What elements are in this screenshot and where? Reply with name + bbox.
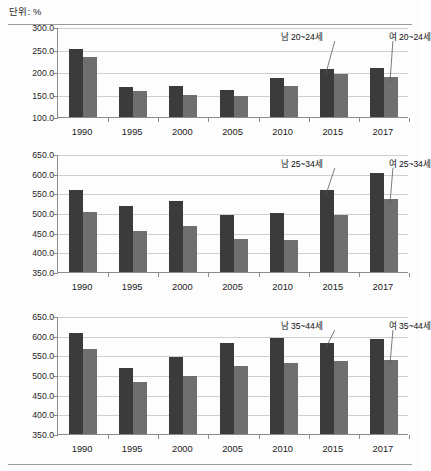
- x-tick-mark: [259, 273, 260, 277]
- bar-male-2000: [169, 86, 183, 117]
- bar-male-2017: [370, 339, 384, 434]
- x-axis-tick-label: 2010: [272, 282, 293, 292]
- y-axis-tick-label: 400.0: [10, 248, 54, 258]
- series-annotation-label: 여 25~34세: [389, 157, 431, 169]
- y-tick-mark: [54, 253, 58, 254]
- y-tick-mark: [54, 28, 58, 29]
- bar-male-2000: [169, 357, 183, 434]
- bar-female-2015: [334, 74, 348, 117]
- bar-female-1990: [83, 212, 97, 272]
- x-axis-tick-label: 2010: [272, 127, 293, 137]
- bar-male-1995: [119, 206, 133, 272]
- y-axis-tick-label: 500.0: [10, 209, 54, 219]
- y-axis-tick-label: 650.0: [10, 312, 54, 322]
- gridline: [58, 155, 408, 156]
- x-tick-mark: [259, 118, 260, 122]
- y-tick-mark: [54, 234, 58, 235]
- y-tick-mark: [54, 96, 58, 97]
- y-tick-mark: [54, 396, 58, 397]
- bar-female-2015: [334, 215, 348, 272]
- y-axis-tick-label: 300.0: [10, 23, 54, 33]
- x-axis-tick-label: 2000: [172, 127, 193, 137]
- x-axis-tick-label: 2015: [322, 282, 343, 292]
- bar-male-2017: [370, 173, 384, 272]
- bar-female-2017: [384, 77, 398, 117]
- y-tick-mark: [54, 317, 58, 318]
- y-tick-mark: [54, 337, 58, 338]
- bar-male-1990: [69, 333, 83, 434]
- plot-area: [57, 317, 408, 435]
- bar-male-2010: [270, 213, 284, 272]
- gridline: [58, 194, 408, 195]
- x-axis-tick-label: 1990: [72, 127, 93, 137]
- x-tick-mark: [309, 435, 310, 439]
- y-axis-tick-label: 600.0: [10, 332, 54, 342]
- gridline: [58, 175, 408, 176]
- x-axis-tick-label: 2005: [222, 127, 243, 137]
- series-annotation-label: 여 20~24세: [389, 30, 431, 42]
- x-tick-mark: [108, 118, 109, 122]
- x-axis-tick-label: 1995: [122, 127, 143, 137]
- x-axis-tick-label: 2017: [373, 127, 394, 137]
- y-axis-tick-label: 550.0: [10, 351, 54, 361]
- bar-male-2015: [320, 343, 334, 434]
- bar-female-2017: [384, 199, 398, 272]
- series-annotation-label: 남 35~44세: [281, 319, 323, 331]
- series-annotation-label: 여 35~44세: [389, 319, 431, 331]
- x-tick-mark: [158, 435, 159, 439]
- bar-male-2015: [320, 190, 334, 272]
- gridline: [58, 317, 408, 318]
- x-axis-tick-label: 1995: [122, 282, 143, 292]
- x-tick-mark: [409, 118, 410, 122]
- x-axis-tick-label: 1995: [122, 444, 143, 454]
- bar-female-2000: [183, 376, 197, 434]
- y-axis-tick-label: 100.0: [10, 113, 54, 123]
- gridline: [58, 28, 408, 29]
- y-tick-mark: [54, 118, 58, 119]
- x-tick-mark: [309, 118, 310, 122]
- x-tick-mark: [309, 273, 310, 277]
- y-tick-mark: [54, 73, 58, 74]
- bar-female-2005: [234, 239, 248, 272]
- plot-area: [57, 155, 408, 273]
- chart-panel-25-34: 350.0400.0450.0500.0550.0600.0650.019901…: [0, 155, 420, 295]
- bottom-divider: [8, 464, 412, 465]
- bar-male-1990: [69, 190, 83, 272]
- x-axis-tick-label: 2015: [322, 444, 343, 454]
- x-axis-tick-label: 1990: [72, 444, 93, 454]
- bar-male-1995: [119, 368, 133, 434]
- unit-label: 단위: %: [9, 4, 42, 18]
- chart-panel-20-24: 100.0150.0200.0250.0300.0199019952000200…: [0, 28, 420, 140]
- chart-panel-35-44: 350.0400.0450.0500.0550.0600.0650.019901…: [0, 317, 420, 457]
- x-tick-mark: [259, 435, 260, 439]
- bar-female-2010: [284, 363, 298, 434]
- y-axis-tick-label: 350.0: [10, 430, 54, 440]
- x-tick-mark: [359, 273, 360, 277]
- x-axis-tick-label: 2017: [373, 282, 394, 292]
- series-annotation-label: 남 25~34세: [281, 157, 323, 169]
- x-tick-mark: [409, 273, 410, 277]
- bar-female-1995: [133, 231, 147, 272]
- plot-area: [57, 28, 408, 118]
- x-axis-tick-label: 2017: [373, 444, 394, 454]
- x-tick-mark: [208, 273, 209, 277]
- bar-female-2010: [284, 86, 298, 118]
- bar-male-2005: [220, 215, 234, 272]
- y-tick-mark: [54, 194, 58, 195]
- bar-female-1995: [133, 91, 147, 117]
- y-tick-mark: [54, 175, 58, 176]
- bar-female-2015: [334, 361, 348, 434]
- y-axis-tick-label: 350.0: [10, 268, 54, 278]
- x-tick-mark: [108, 435, 109, 439]
- y-axis-tick-label: 200.0: [10, 68, 54, 78]
- bar-female-2005: [234, 96, 248, 117]
- x-axis-tick-label: 2005: [222, 282, 243, 292]
- y-axis-tick-label: 400.0: [10, 410, 54, 420]
- bar-female-1995: [133, 382, 147, 434]
- y-tick-mark: [54, 356, 58, 357]
- y-tick-mark: [54, 214, 58, 215]
- bar-male-1995: [119, 87, 133, 117]
- y-tick-mark: [54, 51, 58, 52]
- y-axis-tick-label: 150.0: [10, 91, 54, 101]
